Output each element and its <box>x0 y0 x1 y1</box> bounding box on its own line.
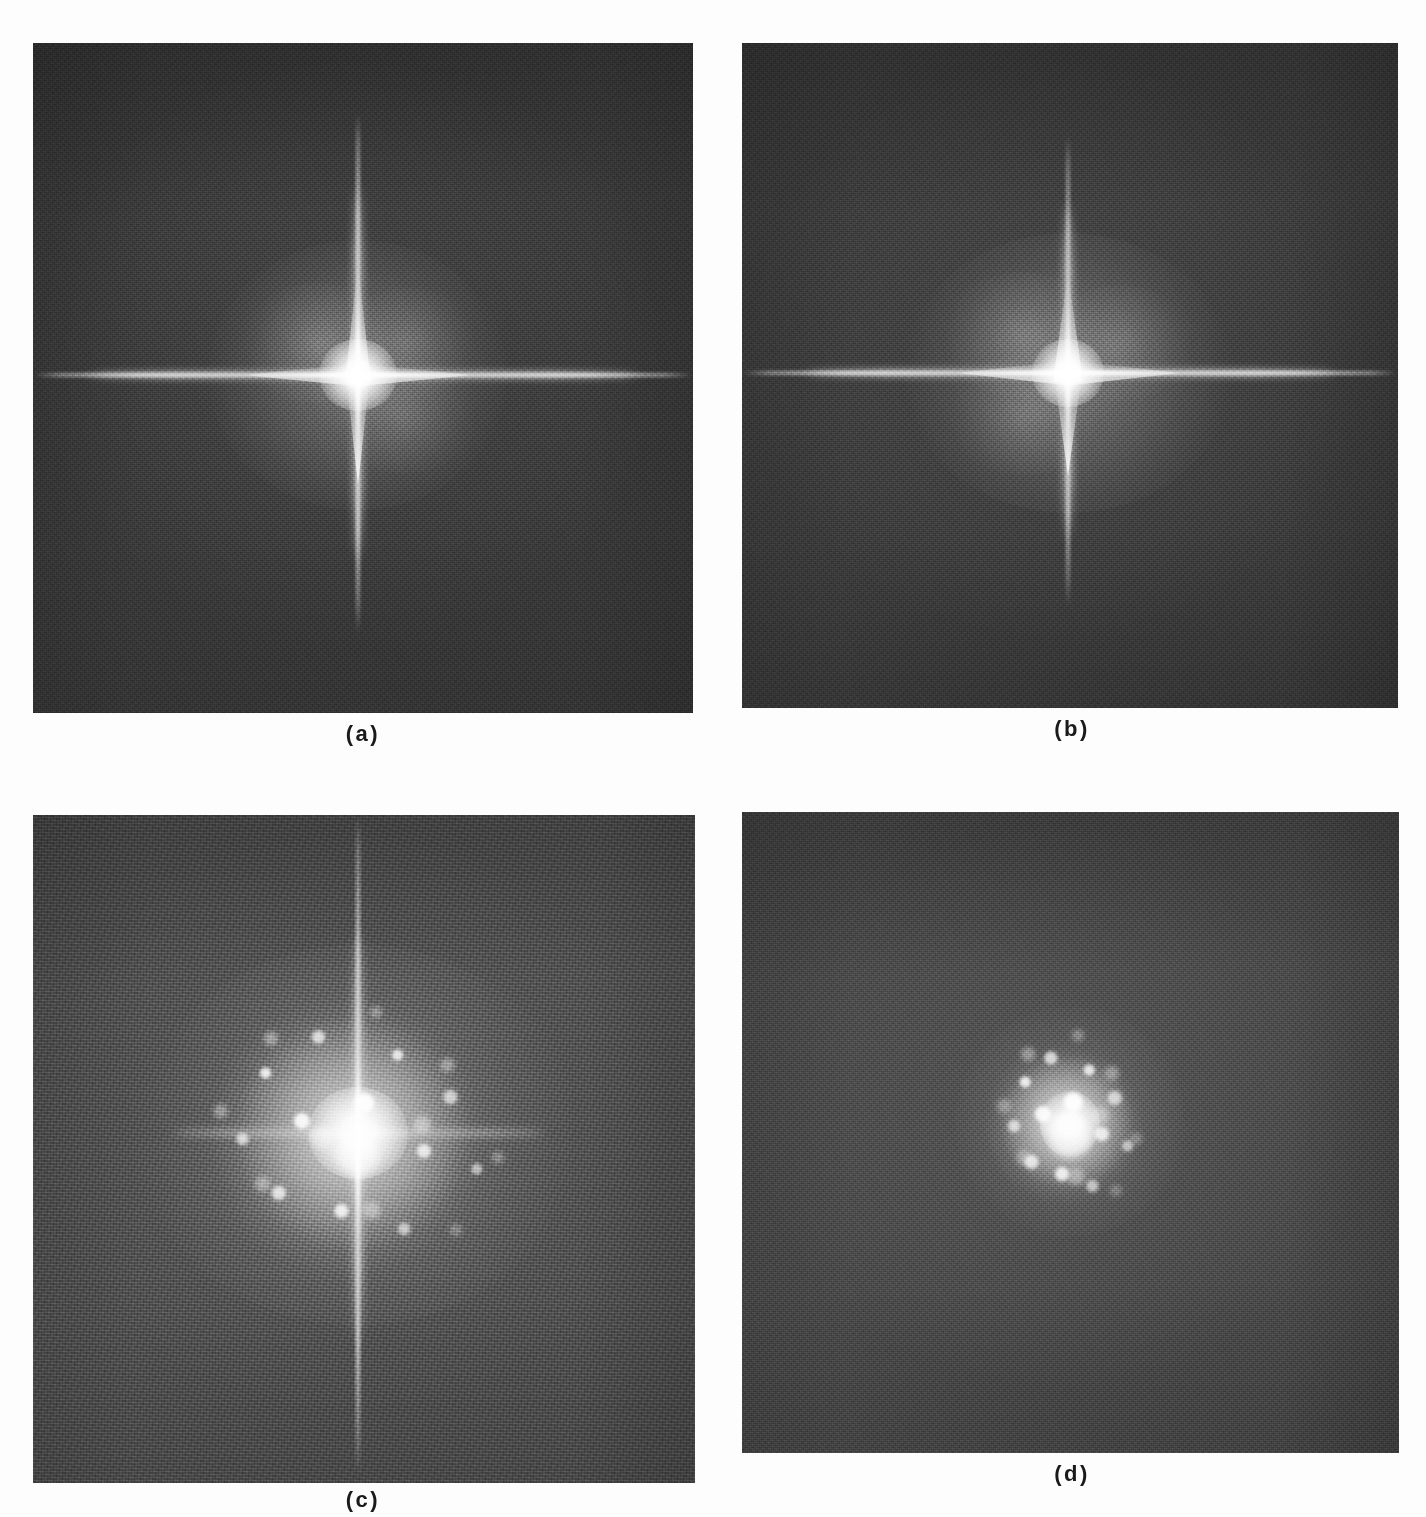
spectrum-panel-b <box>742 43 1398 708</box>
spectrum-panel-c <box>33 815 695 1483</box>
panel-a-scan-grain <box>33 43 693 713</box>
panel-c-scan-grain <box>33 815 695 1483</box>
spectrum-panel-a <box>33 43 693 713</box>
caption-panel-d: (d) <box>1022 1461 1122 1487</box>
figure-sheet: (a) (b) (c) (d) <box>0 0 1426 1517</box>
panel-d-scan-grain <box>742 812 1399 1453</box>
caption-panel-a: (a) <box>313 721 413 747</box>
panel-b-scan-grain <box>742 43 1398 708</box>
caption-panel-c: (c) <box>313 1487 413 1513</box>
spectrum-panel-d <box>742 812 1399 1453</box>
caption-panel-b: (b) <box>1022 716 1122 742</box>
